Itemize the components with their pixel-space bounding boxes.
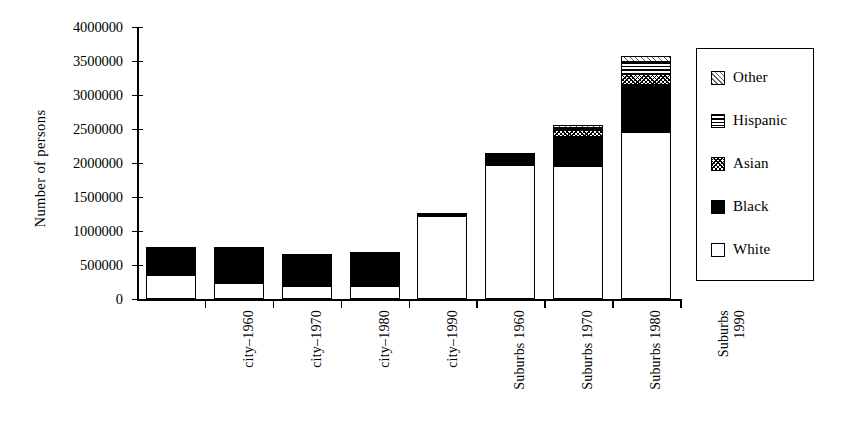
bar-segment-white — [214, 283, 264, 299]
x-axis-label: city–1960 — [241, 310, 257, 427]
legend-label: Asian — [733, 155, 769, 172]
bar-segment-other — [621, 56, 671, 61]
legend-swatch-hispanic-icon — [711, 114, 725, 128]
y-axis-tick-label: 1500000 — [73, 189, 123, 206]
x-axis-label: Suburbs 1990 — [716, 310, 747, 427]
y-axis-tick-label: 3500000 — [73, 53, 123, 70]
bar — [214, 247, 264, 299]
bar — [350, 254, 400, 299]
legend-item-other: Other — [711, 69, 768, 86]
bar-segment-black — [417, 213, 467, 216]
x-axis-tick — [273, 299, 275, 308]
bar-segment-white — [350, 286, 400, 299]
x-axis-label: city–1970 — [309, 310, 325, 427]
x-axis-tick — [544, 299, 546, 308]
bar-segment-white — [417, 216, 467, 299]
y-axis-tick-label: 2000000 — [73, 155, 123, 172]
bar-segment-hispanic — [350, 252, 400, 254]
bar-segment-asian — [553, 130, 603, 137]
x-axis-label: Suburbs 1970 — [580, 310, 596, 427]
bar-segment-black — [350, 256, 400, 286]
y-axis-title: Number of persons — [32, 69, 49, 269]
legend-label: Black — [733, 198, 769, 215]
y-axis-tick-label: 2500000 — [73, 121, 123, 138]
x-axis-tick — [612, 299, 614, 308]
bar-segment-other — [553, 125, 603, 128]
bar-segment-hispanic — [621, 62, 671, 74]
bar-segment-white — [553, 166, 603, 299]
legend-item-hispanic: Hispanic — [711, 112, 787, 129]
bar-segment-white — [621, 132, 671, 299]
y-axis-tick: 2500000 — [132, 129, 143, 130]
x-axis-label: Suburbs 1960 — [512, 310, 528, 427]
bar-segment-black — [553, 137, 603, 166]
y-axis-tick-label: 4000000 — [73, 19, 123, 36]
legend-swatch-black-icon — [711, 200, 725, 214]
legend-label: White — [733, 241, 770, 258]
y-axis-tick: 500000 — [132, 265, 143, 266]
bar-segment-asian — [621, 74, 671, 85]
x-axis-label: city–1980 — [377, 310, 393, 427]
bar — [485, 153, 535, 299]
legend-swatch-white-icon — [711, 243, 725, 257]
bar-segment-black — [485, 153, 535, 164]
legend-item-black: Black — [711, 198, 769, 215]
bar-segment-white — [282, 286, 332, 299]
y-axis-tick: 3500000 — [132, 61, 143, 62]
bar-segment-white — [485, 165, 535, 299]
bar — [146, 247, 196, 299]
x-axis-tick — [680, 299, 682, 308]
y-axis-tick: 1000000 — [132, 231, 143, 232]
legend-swatch-asian-icon — [711, 157, 725, 171]
bar-segment-black — [214, 247, 264, 284]
x-axis-tick — [409, 299, 411, 308]
legend-item-white: White — [711, 241, 770, 258]
bar — [553, 125, 603, 299]
legend-label: Other — [733, 69, 768, 86]
chart-figure: Number of persons 0500000100000015000002… — [0, 0, 845, 427]
x-axis-label: Suburbs 1980 — [648, 310, 664, 427]
bar — [621, 56, 671, 299]
legend: OtherHispanicAsianBlackWhite — [696, 48, 814, 281]
x-axis-label: city–1990 — [445, 310, 461, 427]
y-axis-tick-label: 3000000 — [73, 87, 123, 104]
bar-segment-black — [146, 247, 196, 275]
y-axis-tick-label: 500000 — [80, 257, 123, 274]
y-axis-tick: 0 — [132, 299, 143, 300]
x-axis-tick — [205, 299, 207, 308]
y-axis-tick: 1500000 — [132, 197, 143, 198]
y-axis-tick: 2000000 — [132, 163, 143, 164]
x-axis-tick — [476, 299, 478, 308]
bar-segment-white — [146, 275, 196, 299]
y-axis-tick: 4000000 — [132, 27, 143, 28]
legend-swatch-other-icon — [711, 71, 725, 85]
y-axis-tick-label: 1000000 — [73, 223, 123, 240]
legend-label: Hispanic — [733, 112, 787, 129]
bar-segment-black — [282, 254, 332, 285]
bar-segment-black — [621, 85, 671, 132]
y-axis-tick: 3000000 — [132, 95, 143, 96]
plot-area: 0500000100000015000002000000250000030000… — [137, 27, 680, 299]
y-axis-tick-label: 0 — [116, 291, 123, 308]
bar-segment-hispanic — [553, 128, 603, 130]
bar — [417, 213, 467, 299]
legend-item-asian: Asian — [711, 155, 769, 172]
x-axis-tick — [341, 299, 343, 308]
bar — [282, 254, 332, 299]
